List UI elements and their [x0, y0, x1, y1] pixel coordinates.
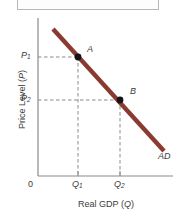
y-tick-label-p2-sub: 2	[27, 96, 31, 103]
y-tick-label-p1: P1	[21, 51, 31, 61]
origin-label: 0	[28, 180, 33, 189]
x-tick-label-q2-sub: 2	[121, 182, 125, 189]
point-b-marker	[117, 97, 124, 104]
point-a-marker	[75, 54, 82, 61]
x-tick-label-q1-base: Q	[72, 179, 79, 189]
ad-curve	[53, 29, 164, 151]
y-tick-label-p1-sub: 1	[27, 53, 31, 60]
x-axis-title-end: )	[131, 199, 134, 209]
x-tick-label-q2: Q2	[114, 180, 125, 190]
x-tick-label-q2-base: Q	[114, 179, 121, 189]
x-tick-label-q1: Q1	[72, 180, 83, 190]
x-axis-title: Real GDP (Q)	[38, 200, 174, 209]
x-axis-title-var: Q	[124, 199, 131, 209]
y-axis-title-end: )	[17, 70, 27, 73]
y-tick-label-p2: P2	[21, 94, 31, 104]
y-axis-title-var: P	[17, 73, 27, 79]
point-b-label: B	[130, 87, 136, 96]
x-tick-label-q1-sub: 1	[79, 182, 83, 189]
ad-curve-label: AD	[158, 152, 171, 161]
figure-container: Price Level (P) Real GDP (Q) P1 P2 Q1 Q2…	[0, 0, 192, 222]
x-axis-title-main: Real GDP (	[78, 199, 124, 209]
point-a-label: A	[87, 45, 93, 54]
chart-plot-area: Price Level (P) Real GDP (Q) P1 P2 Q1 Q2…	[0, 0, 192, 222]
y-axis-title-main: Price Level (	[17, 79, 27, 129]
